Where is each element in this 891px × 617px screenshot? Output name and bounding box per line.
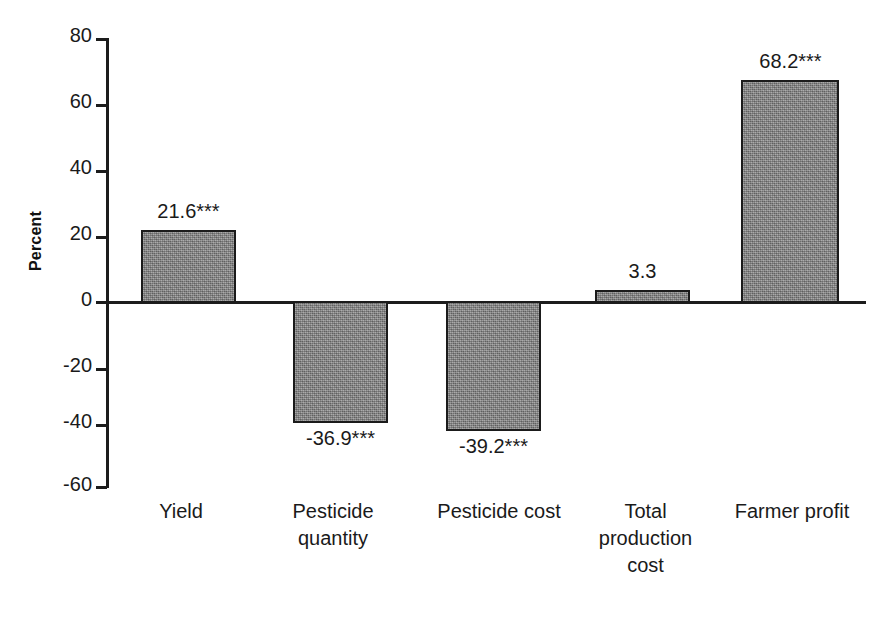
y-tick-label-0: 0 <box>30 288 92 311</box>
category-label-pesticide-quantity: Pesticide quantity <box>278 498 388 552</box>
bar-value-yield: 21.6*** <box>141 200 236 223</box>
category-line: Farmer profit <box>712 498 872 525</box>
y-tick-label-m20: -20 <box>30 354 92 377</box>
y-tick-label-60: 60 <box>30 90 92 113</box>
category-label-pesticide-cost: Pesticide cost <box>424 498 574 525</box>
plot-area: 21.6*** -36.9*** -39.2*** 3.3 68.2*** <box>108 38 866 488</box>
y-tick-label-40: 40 <box>30 156 92 179</box>
bar-value-pesticide-cost: -39.2*** <box>436 435 551 458</box>
category-label-yield: Yield <box>126 498 236 525</box>
chart-figure: Percent 80 60 40 20 0 -20 -40 -60 21.6**… <box>0 0 891 617</box>
y-tick-label-20: 20 <box>30 222 92 245</box>
category-label-farmer-profit: Farmer profit <box>712 498 872 525</box>
bar-total-production-cost[interactable] <box>595 290 690 303</box>
bar-yield[interactable] <box>141 230 236 303</box>
category-line: quantity <box>278 525 388 552</box>
bar-pesticide-quantity[interactable] <box>293 301 388 423</box>
category-line: cost <box>583 552 708 579</box>
category-line: Yield <box>126 498 236 525</box>
category-line: Total <box>583 498 708 525</box>
bar-value-farmer-profit: 68.2*** <box>733 50 848 73</box>
y-tick-label-80: 80 <box>30 24 92 47</box>
category-label-total-production-cost: Total production cost <box>583 498 708 579</box>
y-tick-label-m60: -60 <box>30 473 92 496</box>
bar-value-total-production-cost: 3.3 <box>595 260 690 283</box>
category-line: Pesticide <box>278 498 388 525</box>
category-line: production <box>583 525 708 552</box>
bar-pesticide-cost[interactable] <box>446 301 541 431</box>
y-tick-label-m40: -40 <box>30 410 92 433</box>
category-line: Pesticide cost <box>424 498 574 525</box>
bar-farmer-profit[interactable] <box>741 80 839 303</box>
bar-value-pesticide-quantity: -36.9*** <box>283 427 398 450</box>
